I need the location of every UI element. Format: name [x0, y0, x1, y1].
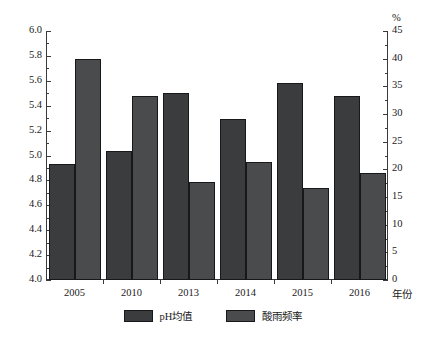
category-label-2014: 2014 — [235, 287, 256, 298]
right-axis-unit-label: % — [392, 12, 401, 23]
left-axis-tick-label: 5.6 — [29, 75, 42, 86]
left-axis-minor-tick — [46, 143, 49, 144]
left-axis-major-tick — [46, 156, 51, 157]
left-axis-tick-label: 4.8 — [29, 174, 42, 185]
right-axis-minor-tick — [385, 128, 388, 129]
bar-ph-2015 — [277, 83, 303, 280]
bar-ph-2014 — [220, 119, 246, 280]
right-axis-tick-label: 45 — [392, 25, 403, 36]
left-axis-tick-label: 5.4 — [29, 100, 42, 111]
right-axis-major-tick — [383, 59, 388, 60]
bottom-axis-tick — [160, 280, 161, 284]
bar-rate-2013 — [189, 182, 215, 280]
right-axis-tick-label: 15 — [392, 191, 403, 202]
legend-label: pH均值 — [160, 308, 193, 323]
right-axis-tick-label: 20 — [392, 163, 403, 174]
left-axis-minor-tick — [46, 43, 49, 44]
right-axis-major-tick — [383, 280, 388, 281]
right-axis-tick-label: 5 — [392, 246, 397, 257]
left-axis-tick-label: 5.8 — [29, 50, 42, 61]
legend-label: 酸雨频率 — [262, 308, 302, 323]
category-label-2005: 2005 — [64, 287, 85, 298]
right-axis-minor-tick — [385, 100, 388, 101]
right-axis-minor-tick — [385, 45, 388, 46]
left-axis-minor-tick — [46, 118, 49, 119]
right-axis-tick-label: 40 — [392, 53, 403, 64]
left-axis-major-tick — [46, 81, 51, 82]
right-axis-major-tick — [383, 86, 388, 87]
right-axis-tick-label: 35 — [392, 80, 403, 91]
left-axis-tick-label: 4.4 — [29, 224, 42, 235]
bottom-axis-tick — [217, 280, 218, 284]
bar-ph-2016 — [334, 96, 360, 280]
right-axis-tick-label: 0 — [392, 274, 397, 285]
bar-rate-2016 — [360, 173, 386, 280]
right-axis-major-tick — [383, 169, 388, 170]
legend-swatch-icon — [226, 310, 255, 322]
bar-rate-2010 — [132, 96, 158, 280]
left-axis-tick-label: 6.0 — [29, 25, 42, 36]
right-axis-major-tick — [383, 31, 388, 32]
left-axis-tick-label: 4.0 — [29, 274, 42, 285]
right-axis-tick-label: 30 — [392, 108, 403, 119]
bottom-axis-tick — [103, 280, 104, 284]
bar-ph-2013 — [163, 93, 189, 280]
right-axis-major-tick — [383, 142, 388, 143]
left-axis-tick-label: 5.0 — [29, 150, 42, 161]
bottom-axis-tick — [274, 280, 275, 284]
bar-rate-2014 — [246, 162, 272, 280]
left-axis-major-tick — [46, 56, 51, 57]
plot-area: 4.04.24.44.64.85.05.25.45.65.86.0 051015… — [46, 31, 388, 280]
acid-rain-ph-bar-chart: 4.04.24.44.64.85.05.25.45.65.86.0 051015… — [0, 0, 426, 340]
left-axis-tick-label: 5.2 — [29, 125, 42, 136]
right-axis-major-tick — [383, 114, 388, 115]
category-label-2015: 2015 — [292, 287, 313, 298]
left-axis-tick-label: 4.2 — [29, 249, 42, 260]
right-axis-minor-tick — [385, 156, 388, 157]
category-label-2013: 2013 — [178, 287, 199, 298]
category-label-2010: 2010 — [121, 287, 142, 298]
bar-ph-2010 — [106, 151, 132, 280]
legend-entry-rate[interactable]: 酸雨频率 — [226, 308, 302, 323]
bar-rate-2015 — [303, 188, 329, 280]
bottom-axis-tick — [331, 280, 332, 284]
left-axis-major-tick — [46, 31, 51, 32]
bar-ph-2005 — [49, 164, 75, 280]
left-axis-major-tick — [46, 280, 51, 281]
chart-legend: pH均值酸雨频率 — [0, 308, 426, 323]
right-axis-tick-label: 25 — [392, 136, 403, 147]
bar-rate-2005 — [75, 59, 101, 280]
x-axis-title: 年份 — [392, 286, 412, 301]
legend-swatch-icon — [124, 310, 153, 322]
left-axis-minor-tick — [46, 68, 49, 69]
left-axis-tick-label: 4.6 — [29, 199, 42, 210]
category-label-2016: 2016 — [349, 287, 370, 298]
legend-entry-ph[interactable]: pH均值 — [124, 308, 193, 323]
left-axis-minor-tick — [46, 93, 49, 94]
left-axis-major-tick — [46, 106, 51, 107]
right-axis-tick-label: 10 — [392, 219, 403, 230]
right-axis-minor-tick — [385, 73, 388, 74]
left-axis-major-tick — [46, 131, 51, 132]
